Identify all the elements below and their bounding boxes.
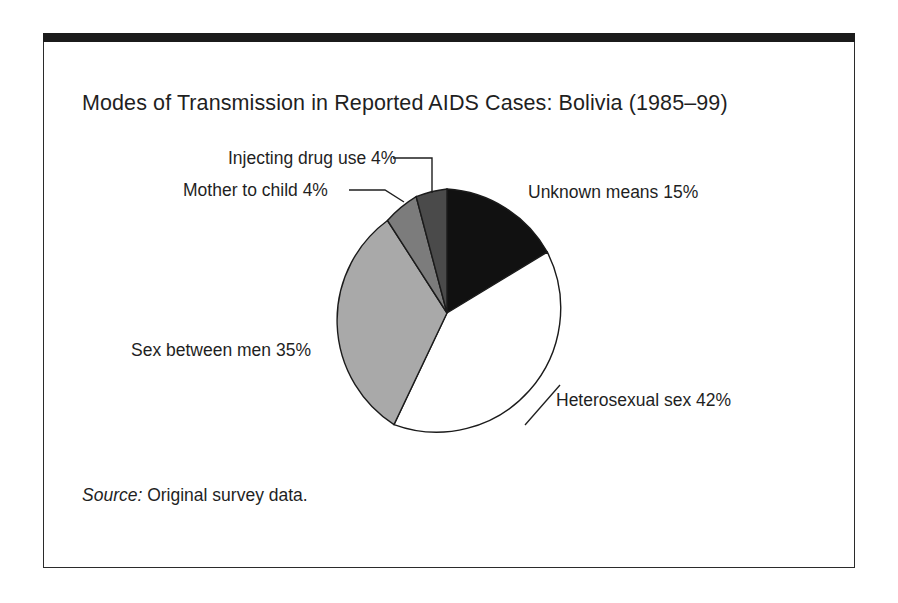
leader-line-mother-to-child xyxy=(349,190,404,202)
slice-label-sex-between-men: Sex between men 35% xyxy=(131,340,311,361)
slice-label-mother-to-child: Mother to child 4% xyxy=(183,180,328,201)
pie-chart: Injecting drug use 4% Mother to child 4%… xyxy=(0,0,898,603)
slice-label-heterosexual-sex: Heterosexual sex 42% xyxy=(556,390,731,411)
source-note: Source: Original survey data. xyxy=(82,485,308,506)
pie-chart-svg xyxy=(0,0,898,603)
leader-line-heterosexual-sex xyxy=(525,385,560,425)
slice-label-unknown-means: Unknown means 15% xyxy=(528,182,698,203)
figure-root: Modes of Transmission in Reported AIDS C… xyxy=(0,0,898,603)
source-label: Source: xyxy=(82,485,142,505)
source-text: Original survey data. xyxy=(142,485,307,505)
slice-label-injecting-drug-use: Injecting drug use 4% xyxy=(228,148,396,169)
leader-line-injecting-drug-use xyxy=(393,158,432,193)
